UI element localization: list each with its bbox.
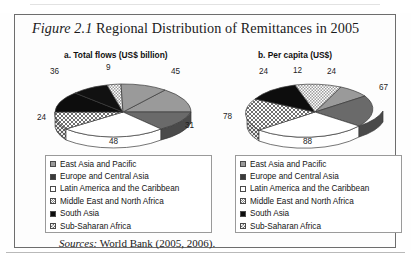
legend-swatch-south-asia-icon <box>240 211 246 217</box>
pie-a-label-31: 31 <box>185 121 194 130</box>
legend-swatch-latin-america-and-the-caribbean-icon <box>50 186 56 192</box>
legend-label-europe-and-central-asia: Europe and Central Asia <box>250 172 339 181</box>
legend-label-latin-america-and-the-caribbean: Latin America and the Caribbean <box>250 184 369 193</box>
legend-swatch-south-asia-icon <box>50 211 56 217</box>
legend-item-latin-america-and-the-caribbean: Latin America and the Caribbean <box>240 183 401 195</box>
legend-label-middle-east-and-north-africa: Middle East and North Africa <box>60 197 164 206</box>
sources-text: World Bank (2005, 2006). <box>100 237 216 249</box>
legend-label-south-asia: South Asia <box>250 209 289 218</box>
legend-item-middle-east-and-north-africa: Middle East and North Africa <box>240 195 401 207</box>
legend-label-east-asia-and-pacific: East Asia and Pacific <box>60 160 136 169</box>
legend-swatch-middle-east-and-north-africa-icon <box>240 198 246 204</box>
legend-swatch-east-asia-and-pacific-icon <box>50 161 56 167</box>
legend-item-middle-east-and-north-africa: Middle East and North Africa <box>50 195 211 207</box>
scan-margin-top <box>0 0 411 13</box>
page-rule-bottom <box>6 252 405 253</box>
legend-label-sub-saharan-africa: Sub-Saharan Africa <box>250 222 321 231</box>
pie-a-label-36: 36 <box>50 67 59 76</box>
legend-swatch-east-asia-and-pacific-icon <box>240 161 246 167</box>
legend-swatch-latin-america-and-the-caribbean-icon <box>240 186 246 192</box>
legend-item-sub-saharan-africa: Sub-Saharan Africa <box>240 220 401 232</box>
figure-page: Figure 2.1 Regional Distribution of Remi… <box>0 0 411 261</box>
legend-item-latin-america-and-the-caribbean: Latin America and the Caribbean <box>50 183 211 195</box>
legend-label-latin-america-and-the-caribbean: Latin America and the Caribbean <box>60 184 179 193</box>
pie-a-label-48: 48 <box>109 137 118 146</box>
legend-item-south-asia: South Asia <box>50 208 211 220</box>
legend-swatch-europe-and-central-asia-icon <box>240 174 246 180</box>
legend-swatch-sub-saharan-africa-icon <box>50 223 56 229</box>
pie-b-svg <box>223 67 409 153</box>
sources-label: Sources: <box>59 237 97 249</box>
legend-total-flows: East Asia and Pacific Europe and Central… <box>45 155 212 233</box>
legend-label-europe-and-central-asia: Europe and Central Asia <box>60 172 149 181</box>
pie-b-label-24-left: 24 <box>259 67 268 76</box>
pie-b-label-12: 12 <box>293 66 302 75</box>
legend-item-east-asia-and-pacific: East Asia and Pacific <box>50 158 211 170</box>
panel-b-subtitle: b. Per capita (US$) <box>258 50 332 60</box>
pie-b-label-88: 88 <box>303 137 312 146</box>
pie-b-label-67: 67 <box>379 83 388 92</box>
legend-item-europe-and-central-asia: Europe and Central Asia <box>240 170 401 182</box>
pie-chart-per-capita: 24 12 24 67 78 88 <box>223 67 409 153</box>
pie-a-label-9: 9 <box>106 63 111 72</box>
legend-label-sub-saharan-africa: Sub-Saharan Africa <box>60 222 131 231</box>
legend-label-middle-east-and-north-africa: Middle East and North Africa <box>250 197 354 206</box>
pie-a-svg <box>33 67 219 153</box>
pie-b-label-78: 78 <box>223 112 232 121</box>
legend-label-east-asia-and-pacific: East Asia and Pacific <box>250 160 326 169</box>
legend-item-east-asia-and-pacific: East Asia and Pacific <box>240 158 401 170</box>
legend-swatch-sub-saharan-africa-icon <box>240 223 246 229</box>
legend-swatch-europe-and-central-asia-icon <box>50 174 56 180</box>
pie-a-label-24: 24 <box>37 113 46 122</box>
legend-label-south-asia: South Asia <box>60 209 99 218</box>
pie-b-label-24-right: 24 <box>327 67 336 76</box>
legend-swatch-middle-east-and-north-africa-icon <box>50 198 56 204</box>
figure-number: Figure 2.1 <box>32 20 92 36</box>
figure-title: Figure 2.1 Regional Distribution of Remi… <box>32 20 359 37</box>
legend-item-sub-saharan-africa: Sub-Saharan Africa <box>50 220 211 232</box>
figure-title-text: Regional Distribution of Remittances in … <box>96 20 359 36</box>
legend-item-south-asia: South Asia <box>240 208 401 220</box>
figure-sources: Sources: World Bank (2005, 2006). <box>59 237 215 249</box>
pie-a-label-45: 45 <box>171 67 180 76</box>
page-rule-top <box>30 4 380 5</box>
legend-per-capita: East Asia and Pacific Europe and Central… <box>235 155 402 233</box>
figure-frame: Figure 2.1 Regional Distribution of Remi… <box>14 14 396 248</box>
pie-chart-total-flows: 36 9 45 24 31 48 <box>33 67 219 153</box>
panel-a-subtitle: a. Total flows (US$ billion) <box>64 50 168 60</box>
legend-item-europe-and-central-asia: Europe and Central Asia <box>50 170 211 182</box>
